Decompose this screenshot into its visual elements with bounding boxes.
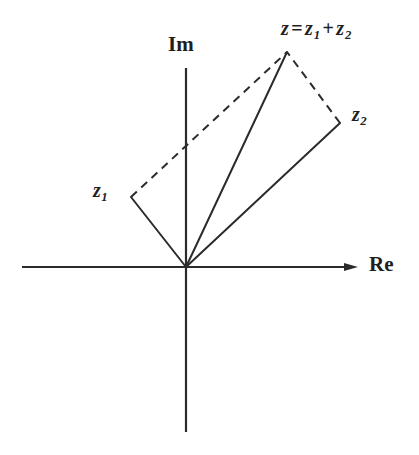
vector-z2: [186, 123, 340, 267]
real-axis-arrow-icon: [344, 263, 358, 271]
point-label-z1-subscript: 1: [101, 190, 108, 204]
point-label-z2-subscript: 2: [360, 114, 367, 128]
sum-equation-label: z=z1+z2: [281, 18, 352, 38]
point-label-z1: z1: [93, 180, 108, 200]
sum-term2-subscript: 2: [344, 28, 351, 42]
vector-z1: [131, 197, 186, 267]
point-label-z2: z2: [352, 104, 367, 124]
point-label-z2-base: z: [352, 103, 360, 125]
real-axis-label: Re: [369, 254, 394, 275]
imaginary-axis-label: Im: [168, 34, 194, 55]
dashed-z1-to-z: [131, 52, 287, 197]
complex-plane-figure: Im Re z1 z2 z=z1+z2: [0, 0, 419, 455]
sum-lhs: z: [281, 17, 289, 39]
sum-term1-subscript: 1: [313, 28, 320, 42]
dashed-z2-to-z: [287, 52, 340, 123]
sum-equals-sign: =: [289, 17, 305, 39]
vector-z: [186, 52, 287, 267]
sum-term1-base: z: [305, 17, 313, 39]
sum-plus-sign: +: [320, 17, 336, 39]
point-label-z1-base: z: [93, 179, 101, 201]
figure-canvas: [0, 0, 419, 455]
